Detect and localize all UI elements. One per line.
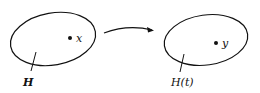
right-point-label: y xyxy=(221,37,229,50)
set-mapping-diagram: x H y H(t) xyxy=(0,0,260,93)
left-point-dot xyxy=(68,36,72,40)
left-set-ellipse xyxy=(6,6,100,72)
left-point-label: x xyxy=(76,32,83,45)
mapping-arrow xyxy=(104,28,152,33)
diagram-canvas: x H y H(t) xyxy=(0,0,260,93)
right-point-dot xyxy=(214,41,218,45)
left-set-leader-line xyxy=(31,52,36,71)
left-set-label: H xyxy=(22,76,34,89)
right-set-label: H(t) xyxy=(170,76,194,89)
right-set-ellipse xyxy=(161,9,251,70)
arrowhead-icon xyxy=(147,27,154,33)
